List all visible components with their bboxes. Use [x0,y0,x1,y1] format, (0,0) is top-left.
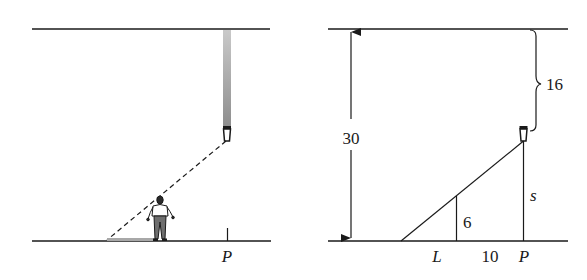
person-height-label-6: 6 [463,213,472,232]
point-p-label-right: P [518,247,529,266]
left-panel: P [32,29,271,266]
right-panel: 30 16 6 s L 10 P [328,29,568,266]
height-label-30: 30 [343,129,360,148]
shadow [107,238,157,241]
distance-label-10: 10 [482,247,499,266]
light-ray-dashed [107,141,226,240]
lamp-icon-right [520,126,528,141]
drop-label-16: 16 [546,75,563,94]
shadow-length-label-l: L [431,247,441,266]
diagram-canvas: P 30 16 6 s L 10 P [0,0,587,280]
lamp-height-label-s: s [530,186,537,205]
lamp-icon [223,126,231,141]
point-p-label-left: P [221,247,232,266]
drop-brace [530,30,541,131]
lamp-cord [223,30,231,126]
